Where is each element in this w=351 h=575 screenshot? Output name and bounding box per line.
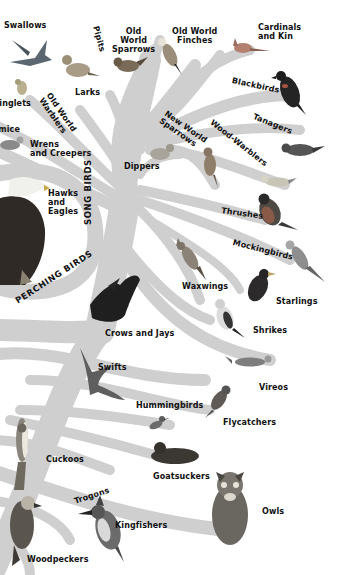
label-shrikes: Shrikes (253, 326, 287, 335)
bald-eagle-illustration (0, 177, 50, 285)
label-swallows: Swallows (4, 21, 46, 30)
label-hummingbirds: Hummingbirds (136, 401, 203, 410)
label-waxwings: Waxwings (182, 282, 228, 291)
label-flycatchers: Flycatchers (223, 418, 276, 427)
wood-warbler-illustration (262, 176, 298, 187)
crow-illustration (90, 275, 140, 321)
flycatcher-illustration (205, 386, 231, 419)
label-woodpeckers: Woodpeckers (27, 555, 89, 564)
bird-family-tree: SONG BIRDS PERCHING BIRDS Swallows Pipit… (0, 0, 351, 575)
swallow-illustration (10, 40, 52, 66)
label-hawks: Hawks and Eagles (48, 189, 78, 216)
label-wrens: Wrens and Creepers (30, 140, 91, 158)
label-old-world-finches: Old World Finches (172, 27, 217, 45)
label-kingfishers: Kingfishers (115, 521, 167, 530)
label-starlings: Starlings (276, 297, 318, 306)
new-world-sparrow-illustration (204, 148, 219, 189)
swift-illustration (80, 348, 125, 400)
dipper-illustration (150, 144, 174, 160)
hummingbird-illustration (148, 416, 170, 431)
starling-illustration (244, 269, 276, 304)
label-cardinals: Cardinals and Kin (258, 23, 301, 41)
label-old-world-sparrows: Old World Sparrows (112, 27, 155, 54)
old-world-sparrow-illustration (114, 57, 149, 72)
label-owls: Owls (262, 507, 284, 516)
cuckoo-illustration (14, 418, 28, 490)
label-dippers: Dippers (124, 162, 160, 171)
tanager-illustration (282, 144, 326, 157)
label-goatsuckers: Goatsuckers (153, 472, 210, 481)
shrike-illustration (213, 299, 245, 338)
lark-illustration (62, 55, 100, 77)
bird-illustrations (0, 0, 351, 575)
goatsucker-illustration (151, 442, 199, 464)
label-swifts: Swifts (98, 363, 127, 372)
label-crows: Crows and Jays (105, 329, 174, 338)
label-kinglets: Kinglets (0, 99, 31, 108)
waxwing-illustration (176, 238, 206, 280)
owl-illustration (212, 472, 248, 545)
label-titmice: Titmice (0, 125, 20, 134)
titmouse-illustration (0, 137, 24, 151)
kinglet-illustration (15, 79, 27, 95)
label-vireos: Vireos (259, 383, 288, 392)
vireo-illustration (225, 356, 272, 367)
song-birds-label: SONG BIRDS (84, 159, 93, 225)
label-cuckoos: Cuckoos (46, 455, 84, 464)
label-larks: Larks (75, 88, 100, 97)
